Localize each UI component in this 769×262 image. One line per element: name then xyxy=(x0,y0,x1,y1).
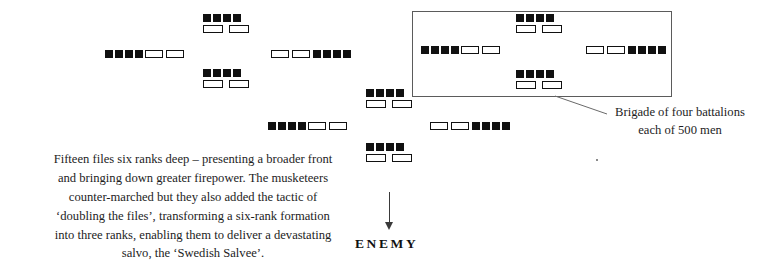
paragraph-line: Fifteen files six ranks deep – presentin… xyxy=(12,150,374,169)
musket-sleeve xyxy=(203,25,223,33)
unit-left-brigade-front xyxy=(105,50,184,58)
pike-rank xyxy=(516,14,568,22)
musket-sleeve xyxy=(392,100,412,108)
paragraph-line: and bringing down greater firepower. The… xyxy=(12,169,374,188)
scan-speck xyxy=(596,159,598,161)
paragraph-line: into three ranks, enabling them to deliv… xyxy=(12,226,374,245)
unit-centre-brigade-top xyxy=(366,89,418,108)
brigade-callout-caption: Brigade of four battalions each of 500 m… xyxy=(605,104,755,140)
enemy-label: ENEMY xyxy=(355,236,418,252)
musket-sleeve xyxy=(145,50,163,58)
musket-sleeve xyxy=(166,50,184,58)
musket-rank xyxy=(366,100,418,108)
pike-block xyxy=(386,143,394,151)
pike-rank xyxy=(203,69,255,77)
musket-rank xyxy=(516,81,568,89)
pike-block xyxy=(233,69,241,77)
paragraph-line: counter-marched but they also added the … xyxy=(12,188,374,207)
pike-block xyxy=(313,50,321,58)
musket-sleeve xyxy=(542,25,562,33)
enemy-direction-arrow-icon xyxy=(385,192,394,232)
musket-sleeve xyxy=(203,80,223,88)
pike-block xyxy=(472,122,480,130)
musket-sleeve xyxy=(308,122,326,130)
pike-block xyxy=(233,14,241,22)
unit-boxed-brigade-rear xyxy=(586,46,666,54)
pike-block xyxy=(658,46,666,54)
mixed-rank xyxy=(105,50,184,58)
pike-block xyxy=(386,89,394,97)
mixed-rank xyxy=(421,46,500,54)
musket-rank xyxy=(203,25,255,33)
pike-block xyxy=(268,122,276,130)
callout-line-2: each of 500 men xyxy=(605,122,755,140)
musket-sleeve xyxy=(292,50,310,58)
pike-block xyxy=(213,69,221,77)
diagram-canvas: Brigade of four battalions each of 500 m… xyxy=(0,0,769,262)
unit-boxed-brigade-bottom xyxy=(516,70,568,89)
musket-sleeve xyxy=(430,122,448,130)
mixed-rank xyxy=(586,46,666,54)
musket-sleeve xyxy=(229,80,249,88)
unit-centre-brigade-rear xyxy=(430,122,510,130)
pike-block xyxy=(546,14,554,22)
musket-sleeve xyxy=(392,154,412,162)
pike-rank xyxy=(366,89,418,97)
pike-block xyxy=(366,89,374,97)
pike-block xyxy=(421,46,429,54)
musket-sleeve xyxy=(542,81,562,89)
pike-block xyxy=(648,46,656,54)
musket-sleeve xyxy=(516,81,536,89)
callout-line-1: Brigade of four battalions xyxy=(605,104,755,122)
pike-block xyxy=(223,69,231,77)
unit-left-brigade-top xyxy=(203,14,255,33)
arrow-shaft xyxy=(389,192,390,224)
pike-block xyxy=(298,122,306,130)
pike-block xyxy=(451,46,459,54)
pike-block xyxy=(628,46,636,54)
musket-sleeve xyxy=(516,25,536,33)
pike-block xyxy=(203,14,211,22)
pike-block xyxy=(213,14,221,22)
pike-block xyxy=(536,70,544,78)
mixed-rank xyxy=(268,122,347,130)
unit-left-brigade-rear xyxy=(271,50,351,58)
musket-sleeve xyxy=(229,25,249,33)
mixed-rank xyxy=(430,122,510,130)
pike-block xyxy=(105,50,113,58)
pike-block xyxy=(482,122,490,130)
pike-block xyxy=(502,122,510,130)
musket-sleeve xyxy=(586,46,604,54)
pike-block xyxy=(396,143,404,151)
pike-block xyxy=(333,50,341,58)
pike-block xyxy=(278,122,286,130)
mixed-rank xyxy=(271,50,351,58)
pike-rank xyxy=(203,14,255,22)
paragraph-line: ‘doubling the files’, transforming a six… xyxy=(12,207,374,226)
pike-block xyxy=(115,50,123,58)
pike-block xyxy=(526,14,534,22)
pike-block xyxy=(536,14,544,22)
paragraph-line: salvo, the ‘Swedish Salvee’. xyxy=(12,244,374,262)
musket-sleeve xyxy=(366,100,386,108)
unit-boxed-brigade-front xyxy=(421,46,500,54)
musket-sleeve xyxy=(607,46,625,54)
musket-rank xyxy=(516,25,568,33)
pike-block xyxy=(516,14,524,22)
unit-boxed-brigade-top xyxy=(516,14,568,33)
unit-left-brigade-bottom xyxy=(203,69,255,88)
pike-block xyxy=(343,50,351,58)
musket-sleeve xyxy=(451,122,469,130)
pike-block xyxy=(288,122,296,130)
pike-block xyxy=(376,89,384,97)
musket-sleeve xyxy=(482,46,500,54)
musket-sleeve xyxy=(329,122,347,130)
pike-block xyxy=(223,14,231,22)
pike-block xyxy=(431,46,439,54)
pike-block xyxy=(135,50,143,58)
pike-block xyxy=(492,122,500,130)
pike-block xyxy=(441,46,449,54)
pike-block xyxy=(125,50,133,58)
musket-sleeve xyxy=(271,50,289,58)
pike-block xyxy=(396,89,404,97)
